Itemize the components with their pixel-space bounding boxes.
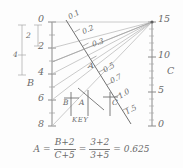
axis-right-tick-5: 5 [158, 85, 164, 95]
apex-point [150, 20, 153, 23]
equation-frac2-denominator: 3+5 [89, 151, 110, 160]
axis-left-tick-4: 4 [38, 67, 44, 77]
axis-left-tick-8: 8 [38, 119, 44, 129]
point-marker-a: A [88, 62, 94, 70]
axis-right-tick-10: 10 [158, 50, 170, 60]
equation-fraction-symbolic: B+2 C+5 [54, 138, 76, 160]
axis-right-tick-0: 0 [158, 119, 164, 129]
equation-equals-3: = [113, 144, 121, 154]
axis-right-name-c: C [167, 66, 174, 76]
equation-frac1-denominator: C+5 [54, 151, 76, 160]
key-label-c: C [112, 99, 118, 107]
axis-right-tick-15: 15 [158, 14, 170, 24]
key-label-a: A [79, 99, 84, 107]
equation-result: 0.625 [124, 144, 150, 154]
key-title: KEY [72, 117, 88, 124]
nomogram-figure: 0 2 4 6 8 B 2 4 15 10 5 0 C 0.1 0.2 0.3 … [0, 0, 183, 168]
equation-equals-1: = [43, 144, 51, 154]
axis-left-tick-0: 0 [38, 14, 44, 24]
equation: A = B+2 C+5 = 3+2 3+5 = 0.625 [0, 132, 183, 166]
equation-equals-2: = [79, 144, 87, 154]
equation-lhs: A [33, 144, 40, 154]
key-label-b: B [63, 99, 69, 107]
dimension-label-4: 4 [13, 51, 18, 59]
axis-left-tick-6: 6 [38, 93, 44, 103]
equation-frac2-numerator: 3+2 [89, 138, 110, 147]
equation-frac1-numerator: B+2 [54, 138, 76, 147]
equation-fraction-numeric: 3+2 3+5 [89, 138, 110, 160]
dimension-label-2: 2 [26, 32, 31, 40]
axis-left-tick-2: 2 [38, 41, 44, 51]
key-diagram-lines [64, 88, 118, 116]
axis-left-name-b: B [27, 78, 34, 88]
axis-right-c [148, 22, 156, 126]
